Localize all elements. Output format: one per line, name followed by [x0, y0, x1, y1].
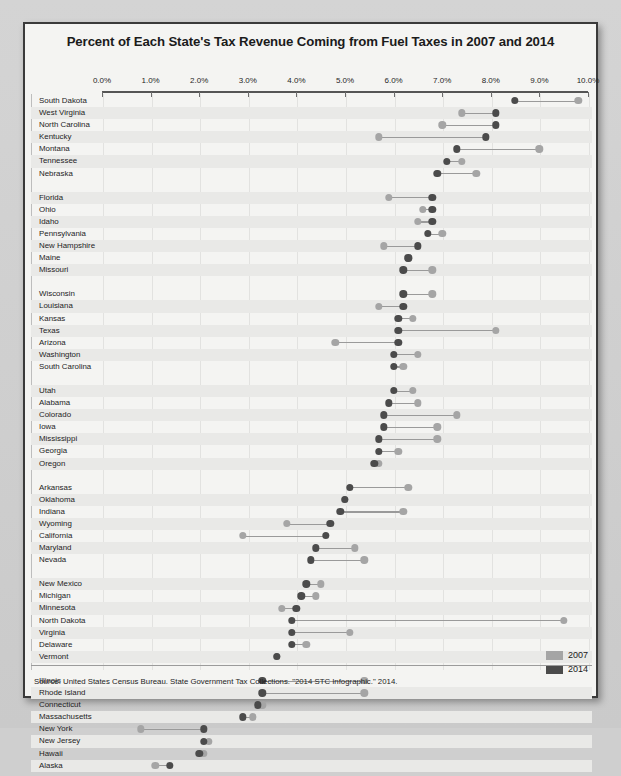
data-point-2007[interactable]: [239, 532, 246, 539]
table-row[interactable]: Rhode Island: [31, 687, 592, 699]
data-point-2007[interactable]: [278, 605, 285, 612]
data-point-2014[interactable]: [424, 230, 431, 237]
data-point-2007[interactable]: [473, 170, 480, 177]
data-point-2014[interactable]: [429, 194, 436, 201]
table-row[interactable]: South Dakota: [31, 95, 592, 107]
data-point-2007[interactable]: [332, 339, 339, 346]
table-row[interactable]: West Virginia: [31, 107, 592, 119]
data-point-2014[interactable]: [298, 592, 305, 599]
data-point-2007[interactable]: [575, 97, 582, 104]
data-point-2007[interactable]: [438, 230, 445, 237]
data-point-2007[interactable]: [409, 387, 416, 394]
data-point-2014[interactable]: [511, 97, 518, 104]
data-point-2007[interactable]: [419, 206, 426, 213]
data-point-2014[interactable]: [239, 713, 246, 720]
table-row[interactable]: Vermont: [31, 651, 592, 663]
data-point-2014[interactable]: [395, 339, 402, 346]
data-point-2014[interactable]: [390, 363, 397, 370]
data-point-2014[interactable]: [400, 290, 407, 297]
data-point-2007[interactable]: [492, 327, 499, 334]
data-point-2007[interactable]: [560, 617, 567, 624]
data-point-2007[interactable]: [351, 544, 358, 551]
table-row[interactable]: Florida: [31, 192, 592, 204]
table-row[interactable]: Mississippi: [31, 433, 592, 445]
table-row[interactable]: Texas: [31, 325, 592, 337]
table-row[interactable]: Indiana: [31, 506, 592, 518]
table-row[interactable]: Maine: [31, 252, 592, 264]
data-point-2007[interactable]: [361, 689, 368, 696]
data-point-2014[interactable]: [492, 109, 499, 116]
table-row[interactable]: Iowa: [31, 421, 592, 433]
data-point-2007[interactable]: [400, 363, 407, 370]
data-point-2014[interactable]: [434, 170, 441, 177]
data-point-2007[interactable]: [312, 592, 319, 599]
data-point-2007[interactable]: [434, 435, 441, 442]
table-row[interactable]: Missouri: [31, 264, 592, 276]
table-row[interactable]: Idaho: [31, 216, 592, 228]
table-row[interactable]: Tennessee: [31, 155, 592, 167]
table-row[interactable]: Wyoming: [31, 518, 592, 530]
table-row[interactable]: Montana: [31, 143, 592, 155]
table-row[interactable]: North Dakota: [31, 615, 592, 627]
data-point-2007[interactable]: [409, 315, 416, 322]
table-row[interactable]: Virginia: [31, 627, 592, 639]
data-point-2007[interactable]: [458, 158, 465, 165]
table-row[interactable]: Ohio: [31, 204, 592, 216]
data-point-2014[interactable]: [302, 580, 309, 587]
data-point-2014[interactable]: [453, 145, 460, 152]
data-point-2014[interactable]: [404, 254, 411, 261]
data-point-2014[interactable]: [395, 315, 402, 322]
data-point-2007[interactable]: [414, 399, 421, 406]
data-point-2007[interactable]: [536, 145, 543, 152]
table-row[interactable]: Connecticut: [31, 699, 592, 711]
data-point-2014[interactable]: [380, 423, 387, 430]
table-row[interactable]: Louisiana: [31, 300, 592, 312]
table-row[interactable]: New Mexico: [31, 578, 592, 590]
data-point-2014[interactable]: [390, 351, 397, 358]
data-point-2014[interactable]: [288, 629, 295, 636]
data-point-2007[interactable]: [400, 508, 407, 515]
table-row[interactable]: Delaware: [31, 639, 592, 651]
data-point-2014[interactable]: [166, 762, 173, 769]
data-point-2014[interactable]: [341, 496, 348, 503]
table-row[interactable]: Colorado: [31, 409, 592, 421]
data-point-2014[interactable]: [429, 218, 436, 225]
table-row[interactable]: New Hampshire: [31, 240, 592, 252]
data-point-2007[interactable]: [438, 121, 445, 128]
table-row[interactable]: New York: [31, 723, 592, 735]
data-point-2007[interactable]: [414, 351, 421, 358]
data-point-2007[interactable]: [302, 641, 309, 648]
data-point-2014[interactable]: [390, 387, 397, 394]
table-row[interactable]: California: [31, 530, 592, 542]
data-point-2007[interactable]: [152, 762, 159, 769]
table-row[interactable]: Hawaii: [31, 748, 592, 760]
data-point-2014[interactable]: [322, 532, 329, 539]
data-point-2007[interactable]: [283, 520, 290, 527]
table-row[interactable]: Wisconsin: [31, 288, 592, 300]
data-point-2007[interactable]: [249, 713, 256, 720]
data-point-2014[interactable]: [429, 206, 436, 213]
data-point-2014[interactable]: [414, 242, 421, 249]
data-point-2014[interactable]: [385, 399, 392, 406]
data-point-2007[interactable]: [385, 194, 392, 201]
data-point-2014[interactable]: [288, 641, 295, 648]
data-point-2007[interactable]: [453, 411, 460, 418]
table-row[interactable]: Washington: [31, 349, 592, 361]
data-point-2014[interactable]: [327, 520, 334, 527]
data-point-2014[interactable]: [400, 303, 407, 310]
table-row[interactable]: North Carolina: [31, 119, 592, 131]
data-point-2014[interactable]: [336, 508, 343, 515]
table-row[interactable]: Maryland: [31, 542, 592, 554]
table-row[interactable]: Arkansas: [31, 482, 592, 494]
data-point-2007[interactable]: [375, 303, 382, 310]
table-row[interactable]: Oregon: [31, 458, 592, 470]
table-row[interactable]: Kentucky: [31, 131, 592, 143]
data-point-2014[interactable]: [259, 689, 266, 696]
data-point-2014[interactable]: [288, 617, 295, 624]
data-point-2014[interactable]: [293, 605, 300, 612]
table-row[interactable]: Alabama: [31, 397, 592, 409]
data-point-2007[interactable]: [404, 484, 411, 491]
data-point-2007[interactable]: [317, 580, 324, 587]
table-row[interactable]: South Carolina: [31, 361, 592, 373]
data-point-2014[interactable]: [443, 158, 450, 165]
